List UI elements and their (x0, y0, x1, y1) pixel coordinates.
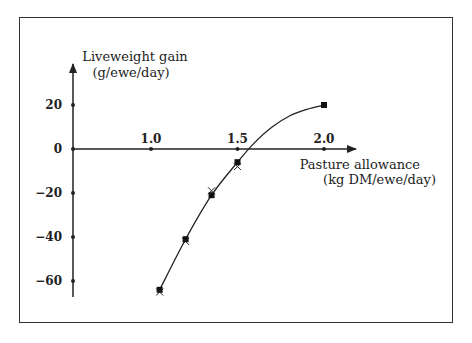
chart-plot: 200−20−40−60 1.01.52.0 Liveweight gain (… (0, 0, 472, 343)
svg-text:Liveweight gain: Liveweight gain (82, 49, 188, 64)
y-label-line1: Liveweight gain (82, 49, 188, 64)
svg-text:(g/ewe/day): (g/ewe/day) (92, 65, 169, 80)
x-tick-mark (236, 147, 240, 151)
y-tick-label: −40 (35, 230, 62, 244)
x-ticks: 1.01.52.0 (141, 132, 335, 151)
y-axis-label: Liveweight gain (g/ewe/day) (82, 49, 188, 80)
x-tick-label: 1.0 (141, 132, 162, 146)
x-tick-label: 2.0 (314, 132, 335, 146)
svg-text:(kg DM/ewe/day): (kg DM/ewe/day) (323, 172, 436, 187)
y-tick-label: 20 (45, 98, 62, 112)
x-axis-label: Pasture allowance (kg DM/ewe/day) (300, 157, 436, 187)
x-tick-label: 1.5 (227, 132, 248, 146)
y-tick-mark (71, 147, 75, 151)
x-label-line1: Pasture allowance (300, 157, 421, 172)
y-tick-mark (71, 235, 75, 239)
y-tick-mark (71, 279, 75, 283)
x-label-line2: (kg DM/ewe/day) (323, 172, 436, 187)
y-ticks: 200−20−40−60 (35, 98, 75, 288)
y-tick-label: −20 (35, 186, 62, 200)
x-tick-mark (149, 147, 153, 151)
y-tick-label: 0 (54, 142, 62, 156)
y-label-line2: (g/ewe/day) (92, 65, 169, 80)
y-tick-label: −60 (35, 274, 62, 288)
y-tick-mark (71, 191, 75, 195)
square-marker (321, 102, 327, 108)
y-tick-mark (71, 103, 75, 107)
svg-text:Pasture allowance: Pasture allowance (300, 157, 421, 172)
x-tick-mark (322, 147, 326, 151)
